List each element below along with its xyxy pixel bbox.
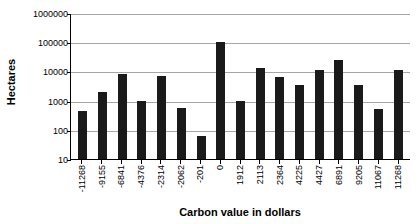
y-axis-tick-label: 100000 xyxy=(22,38,68,48)
bar xyxy=(177,108,186,159)
x-axis-tick-label: 2364 xyxy=(275,165,285,185)
x-axis-tick-label: -4376 xyxy=(136,165,146,188)
y-axis-tick-label: 10 xyxy=(22,155,68,165)
y-axis-title: Hectares xyxy=(5,50,17,114)
x-axis-tick-mark xyxy=(358,160,359,164)
plot-area xyxy=(70,14,410,160)
x-axis-tick-label: -11268 xyxy=(77,165,87,192)
x-axis-tick-label: 1912 xyxy=(235,165,245,185)
x-axis-tick-label: -2062 xyxy=(176,165,186,188)
bar-slot xyxy=(211,14,231,159)
x-axis-tick-mark xyxy=(338,160,339,164)
bar-slot xyxy=(132,14,152,159)
x-axis-tick-mark xyxy=(141,160,142,164)
y-axis-tick-label: 10000 xyxy=(22,67,68,77)
x-axis-tick-label: -6841 xyxy=(116,165,126,188)
x-axis-title: Carbon value in dollars xyxy=(70,206,410,218)
x-axis-tick-labels: -11268-9155-6841-4376-2314-2062-20101912… xyxy=(70,165,410,203)
bar-slot xyxy=(369,14,389,159)
x-label-slot: 11067 xyxy=(368,165,388,203)
x-axis-tick-label: 11067 xyxy=(373,165,383,189)
bar xyxy=(197,136,206,159)
bar xyxy=(334,60,343,159)
x-axis-tick-mark xyxy=(200,160,201,164)
bar xyxy=(354,85,363,159)
x-axis-tick-mark xyxy=(160,160,161,164)
bar-series xyxy=(71,14,410,159)
x-label-slot: 2364 xyxy=(270,165,290,203)
x-label-slot: 0 xyxy=(210,165,230,203)
x-label-slot: -2314 xyxy=(151,165,171,203)
x-axis-tick-mark xyxy=(378,160,379,164)
bar xyxy=(315,70,324,159)
x-axis-tick-mark xyxy=(240,160,241,164)
x-axis-tick-label: -201 xyxy=(195,165,205,183)
x-label-slot: -6841 xyxy=(112,165,132,203)
x-label-slot: 4225 xyxy=(289,165,309,203)
bar xyxy=(374,109,383,159)
x-axis-tick-label: -9155 xyxy=(97,165,107,188)
bar-slot xyxy=(270,14,290,159)
bar xyxy=(295,85,304,159)
bar xyxy=(216,42,225,159)
x-axis-tick-mark xyxy=(81,160,82,164)
x-axis-tick-label: 9205 xyxy=(354,165,364,185)
x-label-slot: -9155 xyxy=(92,165,112,203)
bar xyxy=(78,111,87,159)
bar-slot xyxy=(191,14,211,159)
bar xyxy=(394,70,403,159)
bar xyxy=(236,101,245,159)
bar-slot xyxy=(93,14,113,159)
bar xyxy=(157,76,166,159)
x-label-slot: 2113 xyxy=(250,165,270,203)
x-label-slot: 9205 xyxy=(349,165,369,203)
bar xyxy=(275,77,284,159)
x-axis-tick-label: 6891 xyxy=(334,165,344,185)
x-axis-tick-mark xyxy=(398,160,399,164)
bar-slot xyxy=(112,14,132,159)
bar-slot xyxy=(231,14,251,159)
x-axis-tick-label: 0 xyxy=(215,165,225,170)
x-label-slot: -2062 xyxy=(171,165,191,203)
bar-chart: Hectares 101001000100001000001000000 -11… xyxy=(0,0,419,224)
x-axis-tick-mark xyxy=(180,160,181,164)
x-label-slot: 11268 xyxy=(388,165,408,203)
x-label-slot: -4376 xyxy=(131,165,151,203)
bar-slot xyxy=(388,14,408,159)
bar-slot xyxy=(250,14,270,159)
x-label-slot: -11268 xyxy=(72,165,92,203)
y-axis-tick-labels: 101001000100001000001000000 xyxy=(22,14,68,160)
x-axis-tick-mark xyxy=(101,160,102,164)
x-axis-tick-mark xyxy=(259,160,260,164)
x-axis-tick-mark xyxy=(279,160,280,164)
bar-slot xyxy=(73,14,93,159)
x-axis-tick-mark xyxy=(220,160,221,164)
y-axis-tick-label: 1000 xyxy=(22,97,68,107)
x-axis-tick-label: 11268 xyxy=(393,165,403,189)
x-axis-tick-label: 4427 xyxy=(314,165,324,185)
bar-slot xyxy=(349,14,369,159)
bar-slot xyxy=(309,14,329,159)
bar-slot xyxy=(152,14,172,159)
y-axis-tick-label: 100 xyxy=(22,126,68,136)
x-axis-tick-label: -2314 xyxy=(156,165,166,188)
x-label-slot: 4427 xyxy=(309,165,329,203)
x-axis-tick-mark xyxy=(121,160,122,164)
x-label-slot: -201 xyxy=(191,165,211,203)
x-axis-tick-label: 4225 xyxy=(294,165,304,185)
bar-slot xyxy=(290,14,310,159)
x-axis-tick-label: 2113 xyxy=(255,165,265,184)
bar-slot xyxy=(329,14,349,159)
bar xyxy=(98,92,107,159)
bar xyxy=(118,74,127,159)
y-axis-tick-label: 1000000 xyxy=(22,9,68,19)
x-label-slot: 6891 xyxy=(329,165,349,203)
bar xyxy=(137,101,146,159)
x-axis-tick-mark xyxy=(299,160,300,164)
bar-slot xyxy=(172,14,192,159)
bar xyxy=(256,68,265,159)
x-label-slot: 1912 xyxy=(230,165,250,203)
x-axis-tick-mark xyxy=(319,160,320,164)
